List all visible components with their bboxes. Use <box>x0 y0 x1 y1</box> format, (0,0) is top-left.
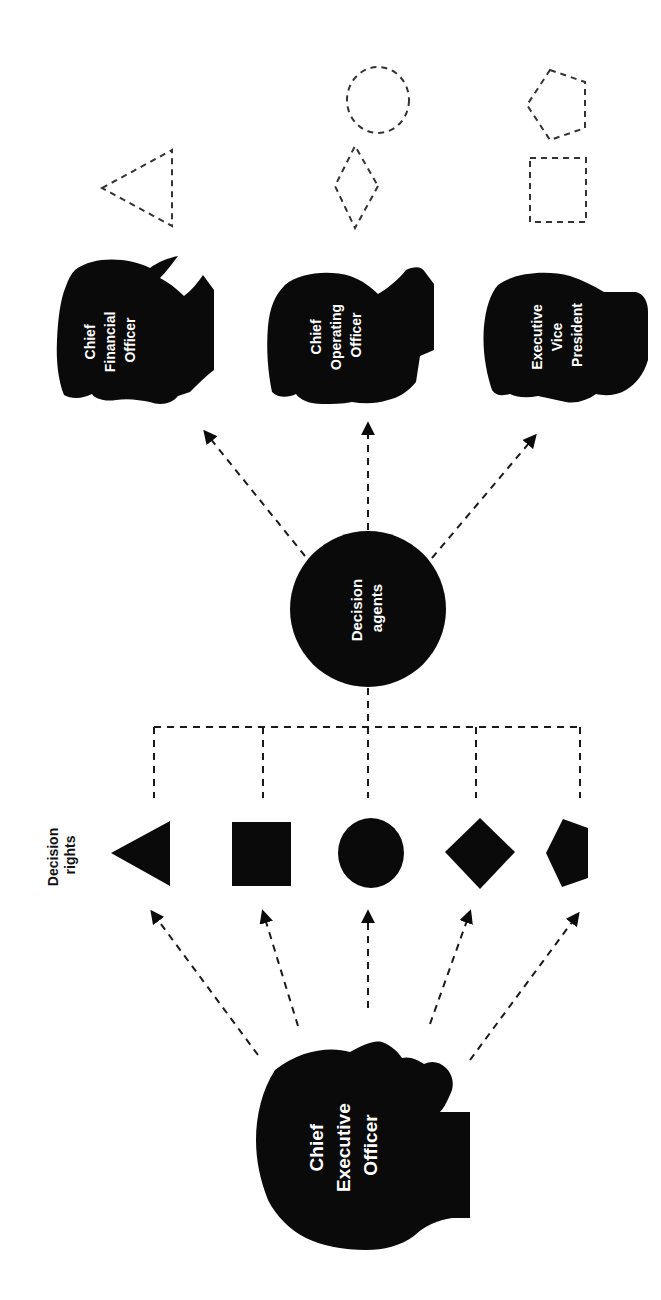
coo-head-icon: Chief Operating Officer <box>267 267 434 404</box>
right-triangle-icon <box>111 821 170 886</box>
evp-label-line2: Vice <box>549 322 565 351</box>
evp-label-line3: President <box>569 303 585 367</box>
right-diamond-icon <box>445 818 515 889</box>
arrow-ceo-to-square <box>263 912 298 1026</box>
hub-label-line2: agents <box>368 584 385 632</box>
evp-label-line1: Executive <box>529 304 545 370</box>
decision-agents-hub: Decision agents <box>290 531 446 687</box>
coo-diamond-outline-icon <box>335 146 378 228</box>
arrow-ceo-to-diamond <box>430 912 470 1024</box>
coo-label-line3: Officer <box>348 312 364 358</box>
coo-label-line2: Operating <box>328 304 344 370</box>
ceo-head-icon: Chief Executive Officer <box>256 1042 470 1250</box>
rights-bracket <box>154 688 580 798</box>
evp-pentagon-outline-icon <box>527 70 585 140</box>
evp-square-outline-icon <box>530 158 586 222</box>
arrow-ceo-to-triangle <box>152 912 258 1055</box>
arrow-hub-to-cfo <box>205 432 305 556</box>
arrow-ceo-to-pentagon <box>470 914 578 1060</box>
hub-label-line1: Decision <box>348 579 365 642</box>
coo-label-line1: Chief <box>308 319 324 354</box>
cfo-head-icon: Chief Financial Officer <box>57 256 214 404</box>
ceo-label-line3: Officer <box>360 1114 381 1176</box>
cfo-label-line2: Financial <box>102 312 118 373</box>
cfo-triangle-outline-icon <box>102 150 172 226</box>
arrow-hub-to-evp <box>432 436 535 558</box>
decision-rights-label: Decision rights <box>45 824 78 886</box>
right-square-icon <box>232 822 291 886</box>
cfo-label-line1: Chief <box>82 324 98 359</box>
cfo-label-line3: Officer <box>122 317 138 363</box>
right-circle-icon <box>338 818 404 888</box>
ceo-label-line2: Executive <box>333 1103 354 1192</box>
decision-rights-diagram: Chief Financial Officer Chief Operating … <box>0 0 661 1300</box>
ceo-label-line1: Chief <box>306 1123 327 1171</box>
evp-head-icon: Executive Vice President <box>483 273 648 403</box>
right-pentagon-icon <box>546 819 588 887</box>
coo-circle-outline-icon <box>347 67 409 133</box>
